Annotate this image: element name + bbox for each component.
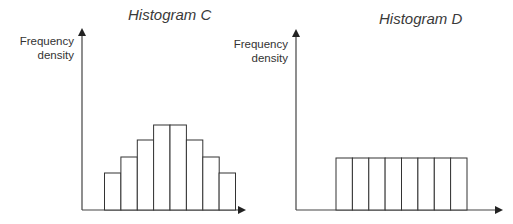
histogram-c-bars (105, 125, 236, 210)
histogram-bar (434, 158, 450, 210)
histogram-bar (186, 140, 202, 210)
histogram-bar (154, 125, 170, 210)
histogram-bar (352, 158, 368, 210)
histogram-bar (336, 158, 352, 210)
histogram-bar (402, 158, 418, 210)
histogram-bar (170, 125, 186, 210)
histogram-bar (451, 158, 467, 210)
histogram-bar (418, 158, 434, 210)
histogram-bar (369, 158, 385, 210)
histograms-canvas (0, 0, 513, 224)
histogram-bar (105, 173, 121, 210)
histogram-bar (219, 173, 235, 210)
histogram-bar (121, 157, 137, 210)
histogram-bar (203, 157, 219, 210)
histogram-bar (385, 158, 401, 210)
histogram-bar (137, 140, 153, 210)
histogram-d-bars (336, 158, 467, 210)
